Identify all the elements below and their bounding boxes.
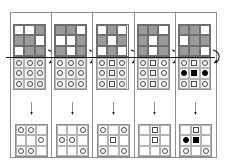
panel-row <box>10 12 216 158</box>
token-cell <box>76 68 86 78</box>
token-cell <box>35 58 45 68</box>
square-token-icon <box>109 70 115 76</box>
empty-slot-icon <box>59 148 65 154</box>
circle-token-icon <box>37 60 43 66</box>
color-grid <box>13 24 46 57</box>
token-cell <box>14 79 24 89</box>
circle-token-icon <box>16 81 22 87</box>
token-cell <box>108 125 118 135</box>
panel-4[interactable] <box>134 12 176 158</box>
result-block <box>179 124 212 157</box>
token-cell <box>158 68 168 78</box>
color-cell-light <box>148 35 158 45</box>
empty-slot-icon <box>38 127 44 133</box>
divider-line <box>89 57 133 58</box>
token-cell <box>150 125 160 135</box>
empty-slot-icon <box>203 137 209 143</box>
token-cell <box>66 68 76 78</box>
panel-3[interactable] <box>92 12 134 158</box>
color-cell-light <box>55 35 65 45</box>
circle-token-icon <box>161 81 167 87</box>
panel-1[interactable] <box>10 12 52 158</box>
circle-token-icon <box>119 60 125 66</box>
token-cell <box>26 125 36 135</box>
token-cell <box>55 79 65 89</box>
empty-slot-icon <box>193 148 199 154</box>
down-arrow-icon <box>150 102 159 115</box>
token-cell <box>117 68 127 78</box>
color-cell-light <box>200 46 210 56</box>
color-cell-light <box>97 25 107 35</box>
token-cell <box>36 125 46 135</box>
color-cell-dark <box>66 25 76 35</box>
token-cell <box>150 135 160 145</box>
color-cell-dark <box>138 25 148 35</box>
circle-token-icon <box>57 60 63 66</box>
circle-filled-token-icon <box>181 70 187 76</box>
circle-token-icon <box>99 60 105 66</box>
circle-token-icon <box>69 137 75 143</box>
empty-slot-icon <box>80 137 86 143</box>
color-cell-light <box>14 46 24 56</box>
empty-slot-icon <box>162 127 168 133</box>
circle-token-icon <box>68 81 74 87</box>
circle-token-icon <box>16 60 22 66</box>
color-cell-dark <box>200 35 210 45</box>
color-cell-light <box>117 46 127 56</box>
result-grid <box>179 124 212 157</box>
circle-token-icon <box>140 70 146 76</box>
result-grid <box>56 124 89 157</box>
token-cell <box>119 146 129 156</box>
color-grid <box>96 24 129 57</box>
circle-token-icon <box>78 60 84 66</box>
down-arrow-icon <box>27 102 36 115</box>
square-token-icon <box>152 137 158 143</box>
square-token-icon <box>150 60 156 66</box>
stimulus-block <box>53 24 91 90</box>
result-grid <box>15 124 48 157</box>
color-cell-dark <box>117 35 127 45</box>
circle-token-icon <box>140 81 146 87</box>
empty-slot-icon <box>69 127 75 133</box>
color-cell-light <box>66 46 76 56</box>
stimulus-block <box>136 24 174 90</box>
square-token-icon <box>150 70 156 76</box>
color-cell-dark <box>189 46 199 56</box>
divider-line <box>130 57 174 58</box>
color-cell-dark <box>24 46 34 56</box>
color-cell-light <box>179 35 189 45</box>
color-grid <box>178 24 211 57</box>
color-cell-dark <box>189 25 199 35</box>
color-cell-dark <box>107 25 117 35</box>
circle-token-icon <box>203 148 209 154</box>
token-cell <box>77 146 87 156</box>
color-cell-dark <box>158 35 168 45</box>
color-cell-light <box>148 46 158 56</box>
empty-slot-icon <box>110 148 116 154</box>
token-cell <box>119 125 129 135</box>
token-cell <box>179 68 189 78</box>
empty-slot-icon <box>162 137 168 143</box>
color-cell-dark <box>148 25 158 35</box>
color-cell-light <box>158 25 168 35</box>
circle-token-icon <box>202 81 208 87</box>
square-token-icon <box>109 81 115 87</box>
circle-token-icon <box>121 127 127 133</box>
color-grid <box>137 24 170 57</box>
token-cell <box>117 58 127 68</box>
color-cell-dark <box>189 35 199 45</box>
token-cell <box>97 68 107 78</box>
token-cell <box>36 146 46 156</box>
color-cell-dark <box>76 46 86 56</box>
panel-2[interactable] <box>51 12 93 158</box>
token-cell <box>98 135 108 145</box>
circle-token-icon <box>80 127 86 133</box>
panel-5[interactable] <box>175 12 217 158</box>
square-token-icon <box>191 60 197 66</box>
token-cell <box>55 68 65 78</box>
token-cell <box>97 79 107 89</box>
empty-slot-icon <box>152 148 158 154</box>
color-cell-light <box>14 25 24 35</box>
empty-slot-icon <box>100 137 106 143</box>
circle-token-icon <box>121 148 127 154</box>
